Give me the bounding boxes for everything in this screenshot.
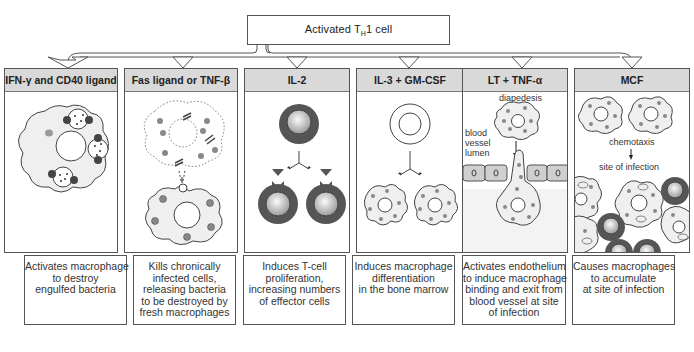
panel-title: IFN-γ and CD40 ligand: [5, 69, 117, 92]
macrophage-icon: [628, 97, 672, 134]
activated-th1-cell-box: Activated TH1 cell: [247, 15, 450, 45]
t-cell-icon: [258, 181, 298, 224]
panel-title: LT + TNF-α: [463, 69, 567, 92]
macrophage-differentiation-illustration: [357, 91, 464, 253]
t-cell-icon: [605, 239, 633, 253]
t-cell-icon: [633, 239, 661, 253]
panel-il-3-gm-csf: IL-3 + GM-CSF: [356, 68, 464, 253]
description-il-3-gm-csf: Induces macrophagedifferentiationin the …: [352, 255, 455, 325]
panel-ifn-gamma-cd40: IFN-γ and CD40 ligand: [4, 68, 118, 253]
panel-title: MCF: [575, 69, 689, 92]
macrophage-icon: [364, 184, 407, 225]
t-cell-icon: [597, 213, 625, 241]
root-label: Activated TH1 cell: [305, 23, 392, 37]
chemotaxis-illustration: [575, 91, 690, 253]
t-cell-icon: [661, 177, 689, 205]
macrophage-icon: [494, 102, 539, 140]
t-cell-icon: [306, 181, 346, 224]
description-lt-tnf-alpha: Activates endotheliumto induce macrophag…: [462, 255, 566, 325]
activated-macrophage-illustration: [5, 91, 118, 253]
infected-cell-killing-illustration: [125, 91, 238, 253]
description-mcf: Causes macrophagesto accumulateat site o…: [572, 255, 675, 325]
blood-vessel-lumen-label: bloodvessellumen: [465, 128, 491, 158]
diapedesis-label: diapedesis: [499, 93, 542, 103]
panel-mcf: MCF: [574, 68, 690, 253]
t-cell-icon: [279, 104, 319, 144]
macrophage-icon: [414, 184, 457, 225]
panel-title: Fas ligand or TNF-β: [125, 69, 237, 92]
panel-title: IL-3 + GM-CSF: [357, 69, 463, 92]
chemotaxis-label: chemotaxis: [609, 137, 655, 147]
description-fas-ligand-tnf-beta: Kills chronicallyinfected cells,releasin…: [133, 255, 236, 325]
panel-fas-ligand-tnf-beta: Fas ligand or TNF-β: [124, 68, 238, 253]
migrating-macrophage-icon: [496, 150, 540, 225]
site-of-infection-label: site of infection: [599, 162, 659, 172]
description-il-2: Induces T-cellproliferation,increasing n…: [243, 255, 346, 325]
diapedesis-illustration: [463, 91, 568, 253]
macrophage-icon: [578, 97, 622, 134]
t-cell-proliferation-illustration: [245, 91, 350, 253]
panel-title: IL-2: [245, 69, 349, 92]
description-ifn-gamma-cd40: Activates macrophageto destroyengulfed b…: [24, 255, 127, 325]
panel-lt-tnf-alpha: LT + TNF-α diapedesis: [462, 68, 568, 253]
panel-il-2: IL-2: [244, 68, 350, 253]
